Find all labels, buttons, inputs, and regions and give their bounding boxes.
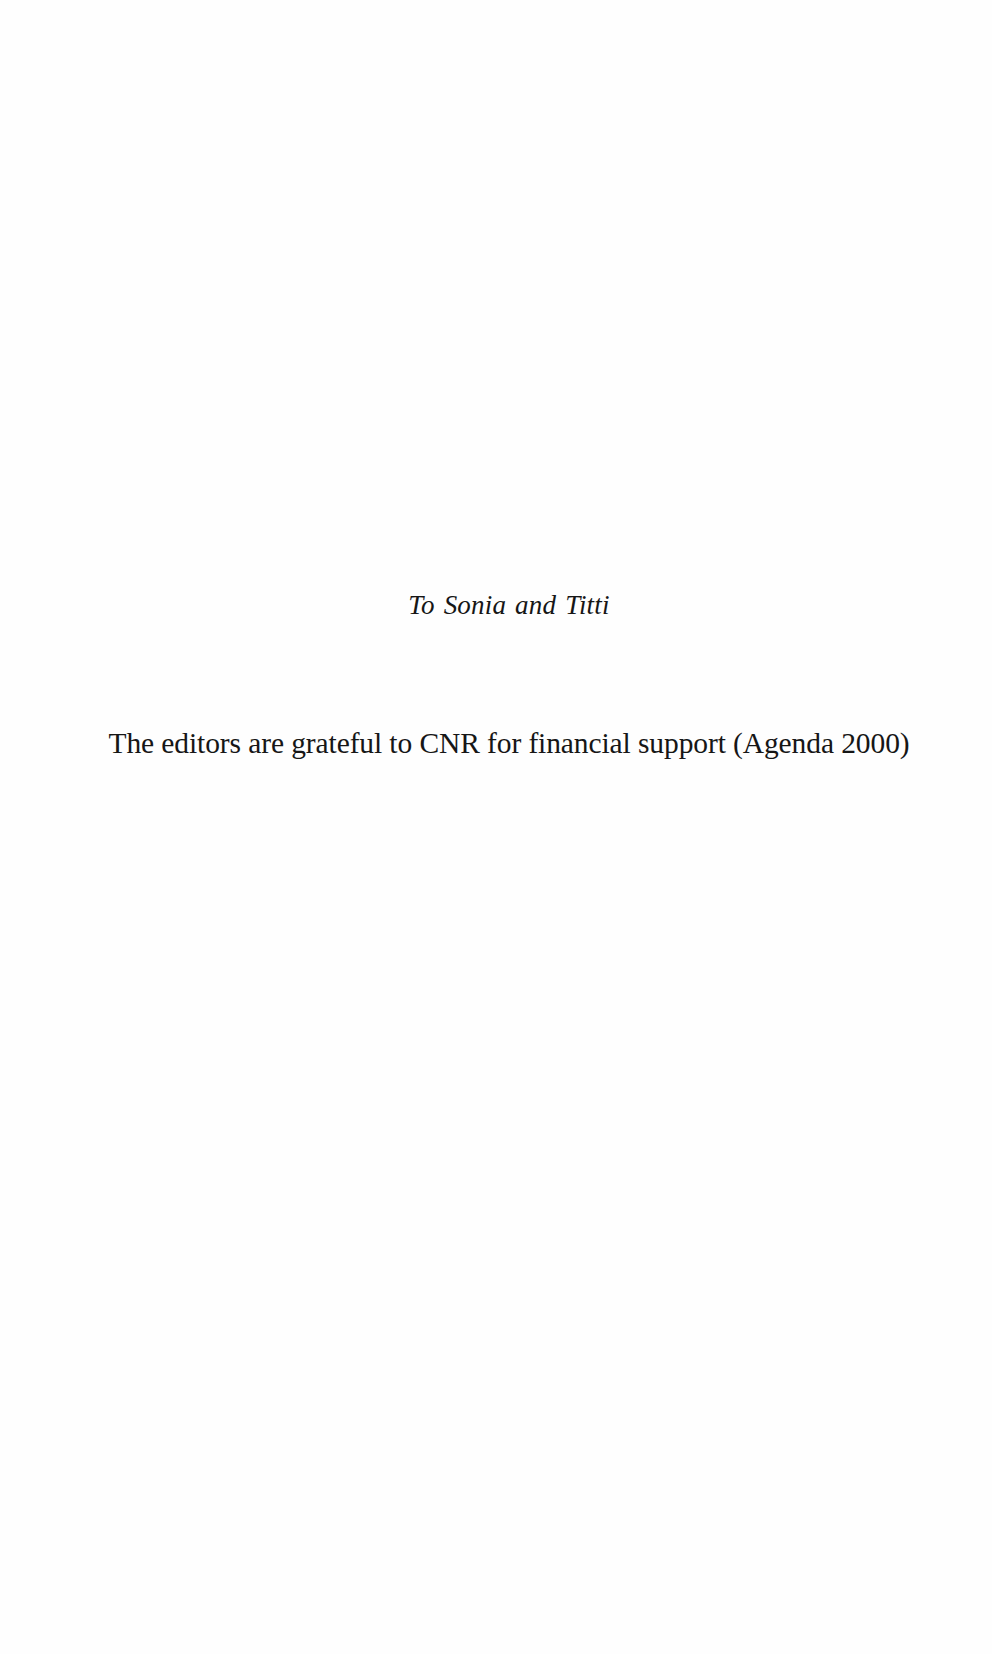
document-page: To Sonia and Titti The editors are grate… [0, 0, 992, 1654]
acknowledgement-text: The editors are grateful to CNR for fina… [26, 725, 992, 761]
dedication-text: To Sonia and Titti [26, 588, 992, 622]
